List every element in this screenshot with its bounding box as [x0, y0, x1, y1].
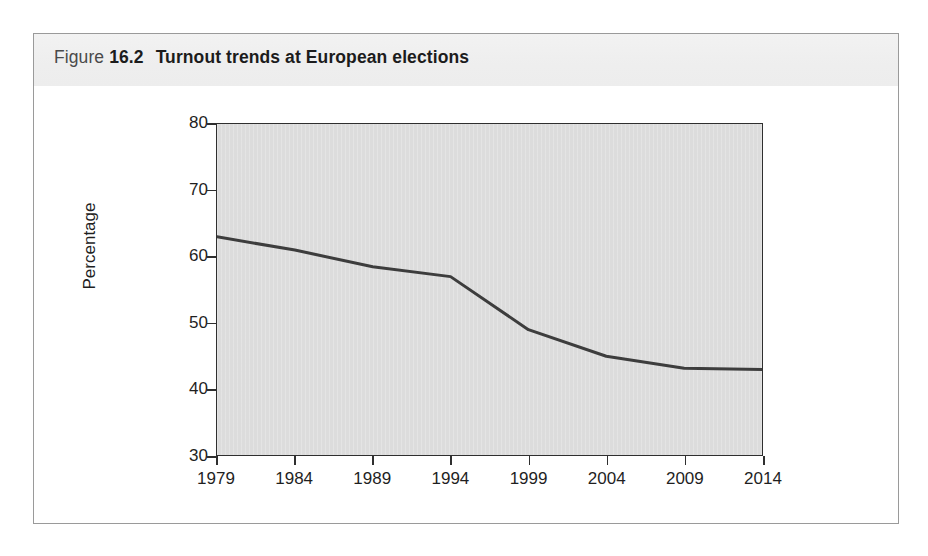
y-axis-tick-label: 30 — [168, 446, 208, 466]
caption-label: Figure — [54, 47, 104, 67]
figure-caption: Figure 16.2 Turnout trends at European e… — [54, 47, 469, 68]
x-axis-tick-label: 1999 — [489, 469, 569, 489]
y-axis-tick-label: 40 — [168, 379, 208, 399]
x-axis-tick-mark — [685, 456, 687, 465]
y-axis-tick-labels: 807060504030 — [164, 123, 208, 456]
y-axis-tick-mark — [207, 123, 216, 125]
x-axis-tick-label: 2014 — [723, 469, 803, 489]
x-axis-tick-mark — [763, 456, 765, 465]
y-axis-tick-mark — [207, 456, 216, 458]
y-axis-tick-mark — [207, 323, 216, 325]
y-axis-tick-label: 70 — [168, 180, 208, 200]
x-axis-tick-mark — [607, 456, 609, 465]
x-axis-tick-label: 1979 — [176, 469, 256, 489]
line-series-svg — [217, 124, 762, 456]
y-axis-tick-mark — [207, 389, 216, 391]
y-axis-tick-mark — [207, 190, 216, 192]
figure-container: Figure 16.2 Turnout trends at European e… — [33, 33, 899, 524]
x-axis-tick-label: 1984 — [254, 469, 334, 489]
caption-number: 16.2 — [109, 47, 143, 67]
y-axis-tick-label: 60 — [168, 246, 208, 266]
turnout-line — [217, 237, 762, 370]
chart-area: Percentage 807060504030 1979198419891994… — [34, 86, 898, 524]
x-axis-tick-mark — [450, 456, 452, 465]
x-axis-tick-mark — [216, 456, 218, 465]
x-axis-tick-label: 1989 — [332, 469, 412, 489]
x-axis-tick-label: 2004 — [567, 469, 647, 489]
y-axis-tick-mark — [207, 256, 216, 258]
y-axis-tick-label: 50 — [168, 313, 208, 333]
caption-title: Turnout trends at European elections — [156, 47, 469, 67]
plot-area — [216, 123, 763, 456]
x-axis-tick-mark — [529, 456, 531, 465]
x-axis-tick-mark — [372, 456, 374, 465]
x-axis-tick-label: 1994 — [410, 469, 490, 489]
x-axis-tick-mark — [294, 456, 296, 465]
y-axis-title: Percentage — [80, 156, 100, 336]
x-axis-tick-label: 2009 — [645, 469, 725, 489]
y-axis-tick-label: 80 — [168, 113, 208, 133]
